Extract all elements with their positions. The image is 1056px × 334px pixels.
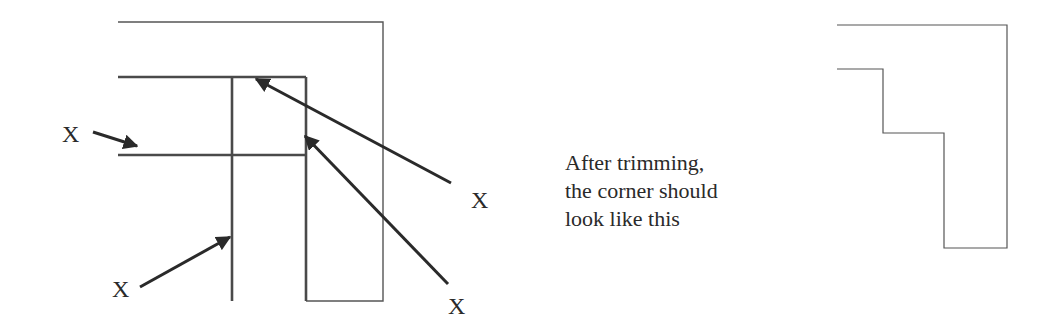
caption-line: look like this: [565, 205, 718, 233]
x-label: X: [471, 187, 488, 213]
arrow-icon: [140, 237, 230, 287]
caption-line: the corner should: [565, 177, 718, 205]
caption: After trimming, the corner should look l…: [565, 149, 718, 233]
x-label: X: [112, 276, 129, 302]
caption-line: After trimming,: [565, 149, 718, 177]
arrow-icon: [305, 136, 448, 284]
trim-diagram: X X X X: [0, 0, 1056, 334]
x-label: X: [62, 121, 79, 147]
arrow-icon: [256, 79, 451, 183]
before-outer-outline: [118, 22, 383, 301]
x-label: X: [448, 293, 465, 319]
arrows: [93, 79, 451, 287]
after-trimmed-corner: [837, 25, 1007, 248]
before-overlap-lines: [118, 77, 306, 301]
arrow-icon: [93, 132, 137, 146]
